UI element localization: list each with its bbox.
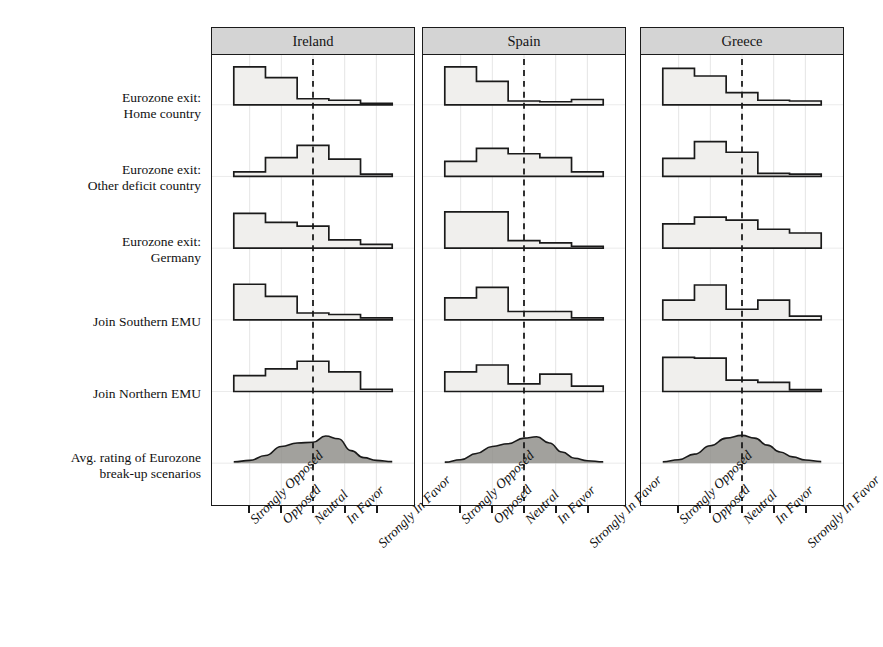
histogram-exit-germany	[663, 217, 821, 248]
row-label-join-south: Join Southern EMU	[1, 314, 201, 330]
xaxis-tick-4	[805, 506, 807, 513]
plot-area-greece	[641, 55, 843, 505]
panel-title-ireland: Ireland	[212, 28, 414, 55]
row-label-exit-other: Eurozone exit: Other deficit country	[1, 162, 201, 193]
plot-svg-spain	[423, 55, 625, 505]
row-label-join-north: Join Northern EMU	[1, 386, 201, 402]
panel-ireland: Ireland	[211, 27, 415, 506]
xaxis-tick-4	[587, 506, 589, 513]
xaxis-greece: Strongly OpposedOpposedNeutralIn FavorSt…	[640, 506, 844, 646]
plot-svg-ireland	[212, 55, 414, 505]
caption-strip	[0, 628, 869, 647]
panel-spain: Spain	[422, 27, 626, 506]
xaxis-ireland: Strongly OpposedOpposedNeutralIn FavorSt…	[211, 506, 415, 646]
row-label-avg-rating: Avg. rating of Eurozone break-up scenari…	[1, 450, 201, 481]
plot-area-spain	[423, 55, 625, 505]
row-label-column: Eurozone exit: Home country Eurozone exi…	[0, 60, 205, 505]
row-label-exit-germany: Eurozone exit: Germany	[1, 234, 201, 265]
plot-area-ireland	[212, 55, 414, 505]
panel-title-greece: Greece	[641, 28, 843, 55]
row-label-exit-home: Eurozone exit: Home country	[1, 90, 201, 121]
plot-svg-greece	[641, 55, 843, 505]
panel-greece: Greece	[640, 27, 844, 506]
panel-title-spain: Spain	[423, 28, 625, 55]
xaxis-tick-4	[376, 506, 378, 513]
xaxis-spain: Strongly OpposedOpposedNeutralIn FavorSt…	[422, 506, 626, 646]
